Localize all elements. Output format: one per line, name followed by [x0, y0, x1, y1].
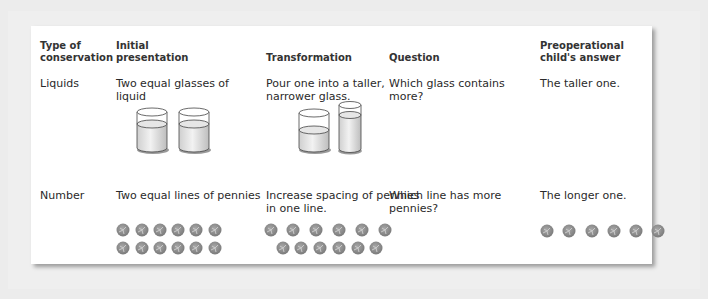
- header-type-of-conservation: Type of conservation: [40, 40, 113, 64]
- cell-line: liquid: [116, 91, 229, 104]
- cell-line: Two equal lines of pennies: [116, 190, 261, 203]
- row-liquids-question: Which glass contains more?: [389, 78, 505, 103]
- header-line: presentation: [116, 52, 188, 64]
- short-and-tall-glasses-icon: [295, 100, 365, 156]
- header-line: Initial: [116, 40, 188, 52]
- cell-line: more?: [389, 91, 505, 104]
- cell-line: Pour one into a taller,: [266, 78, 385, 91]
- cell-line: Two equal glasses of: [116, 78, 229, 91]
- header-transformation: Transformation: [266, 52, 352, 64]
- two-equal-glasses-icon: [133, 106, 213, 156]
- row-number-question: Which line has more pennies?: [389, 190, 501, 215]
- row-liquids-type: Liquids: [40, 78, 79, 91]
- conservation-table-card: Type of conservation Initial presentatio…: [31, 26, 652, 264]
- cell-line: pennies?: [389, 203, 501, 216]
- spread-and-compact-penny-rows-icon: [264, 222, 394, 258]
- row-liquids-initial: Two equal glasses of liquid: [116, 78, 229, 103]
- cell-line: Which line has more: [389, 190, 501, 203]
- header-line: Preoperational: [540, 40, 624, 52]
- header-question: Question: [389, 52, 440, 64]
- row-number-answer: The longer one.: [540, 190, 626, 203]
- header-initial-presentation: Initial presentation: [116, 40, 188, 64]
- row-number-type: Number: [40, 190, 84, 203]
- header-line: Type of: [40, 40, 113, 52]
- header-line: child's answer: [540, 52, 624, 64]
- two-equal-penny-rows-icon: [116, 222, 236, 258]
- header-line: conservation: [40, 52, 113, 64]
- longer-penny-row-icon: [540, 222, 670, 240]
- header-line: Transformation: [266, 52, 352, 64]
- header-line: Question: [389, 52, 440, 64]
- cell-line: The longer one.: [540, 190, 626, 203]
- cell-line: The taller one.: [540, 78, 620, 91]
- header-preoperational-answer: Preoperational child's answer: [540, 40, 624, 64]
- cell-line: Which glass contains: [389, 78, 505, 91]
- row-number-initial: Two equal lines of pennies: [116, 190, 261, 203]
- row-liquids-answer: The taller one.: [540, 78, 620, 91]
